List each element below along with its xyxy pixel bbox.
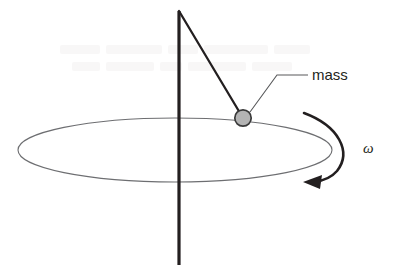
background-watermark [60,45,310,71]
rotation-arrow-shaft [304,113,343,182]
conical-pendulum-diagram: mass ω [0,0,394,278]
angular-velocity-label: ω [363,140,374,156]
mass-label: mass [312,66,348,83]
rotation-arrowhead [303,175,322,189]
mass-bob-circle [235,110,251,126]
rotation-direction-arrow [303,113,343,189]
orbit-path-ellipse [18,118,332,182]
mass-leader-line [250,75,308,112]
figure-canvas: mass ω [0,0,394,278]
